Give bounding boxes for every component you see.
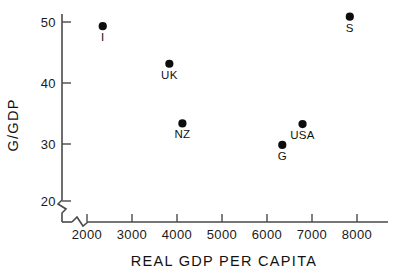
x-axis-title: REAL GDP PER CAPITA [131,253,317,269]
x-tick-group [87,214,357,222]
y-tick-label-20: 20 [41,194,56,209]
data-point-label-i: I [101,31,105,43]
data-point-label-g: G [278,150,287,162]
data-point-i [99,22,107,30]
data-point-uk [165,60,173,68]
data-point-s [346,13,354,21]
x-tick-label-4000: 4000 [162,227,193,242]
x-tick-label-6000: 6000 [252,227,283,242]
data-point-g [278,141,286,149]
x-tick-label-5000: 5000 [207,227,238,242]
scatter-chart: 50 40 30 20 2000 3000 4000 5000 6000 700… [0,0,401,276]
y-tick-label-40: 40 [41,76,56,91]
x-tick-label-2000: 2000 [72,227,103,242]
data-point-label-s: S [346,22,354,34]
data-point-usa [298,120,306,128]
y-axis-title: G/GDP [5,98,21,151]
x-tick-label-8000: 8000 [342,227,373,242]
x-axis-line [72,217,388,226]
data-point-label-usa: USA [290,129,315,141]
data-point-label-uk: UK [161,69,178,81]
y-tick-group [62,22,71,201]
x-tick-label-3000: 3000 [117,227,148,242]
y-tick-label-50: 50 [41,15,56,30]
x-tick-label-7000: 7000 [297,227,328,242]
data-point-label-nz: NZ [174,128,190,140]
y-tick-label-30: 30 [41,137,56,152]
chart-canvas: 50 40 30 20 2000 3000 4000 5000 6000 700… [0,0,401,276]
y-axis-break-icon [58,200,66,222]
data-points-layer: IUKNZGUSAS [99,13,354,162]
data-point-nz [178,119,186,127]
